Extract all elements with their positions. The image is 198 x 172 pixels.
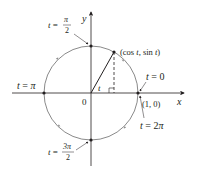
unit-point-label: (1, 0) (142, 99, 161, 109)
origin-label: 0 (82, 97, 87, 107)
right-angle-mark (109, 88, 114, 93)
svg-text:π: π (64, 15, 69, 24)
marker-label-tpi: t = π (17, 80, 36, 91)
arrow-icon-q4 (124, 126, 126, 129)
x-axis-label: x (176, 96, 182, 107)
arrow-icon-q1 (122, 59, 125, 61)
y-axis-label: y (81, 13, 87, 24)
marker-label-tpi2: t = π 2 (48, 15, 71, 35)
unit-circle-diagram: y x 0 t (cos t, sin t) (1, 0) t = 0 t = … (0, 0, 198, 172)
svg-text:t =: t = (48, 20, 58, 30)
pointer-t0 (140, 82, 146, 91)
point-t0 (136, 91, 139, 94)
point-label: (cos t, sin t) (120, 47, 160, 57)
angle-label: t (98, 83, 101, 93)
point-tpi2 (89, 44, 92, 47)
radius-segment (91, 52, 114, 93)
point-t3pi2 (89, 138, 92, 141)
svg-text:t =: t = (48, 147, 58, 157)
svg-text:3π: 3π (62, 142, 72, 151)
svg-text:2: 2 (66, 153, 70, 162)
pointer-tpi2 (74, 34, 88, 44)
arrow-icon-q3 (58, 124, 61, 126)
marker-label-t3pi2: t = 3π 2 (48, 142, 74, 162)
marker-label-t2pi: t = 2π (140, 120, 164, 131)
point-cos-sin (112, 50, 115, 53)
point-tpi (42, 91, 45, 94)
arrow-icon-q2 (56, 57, 58, 60)
marker-label-t0: t = 0 (146, 71, 164, 82)
pointer-t3pi2 (76, 142, 88, 150)
svg-text:2: 2 (65, 26, 69, 35)
